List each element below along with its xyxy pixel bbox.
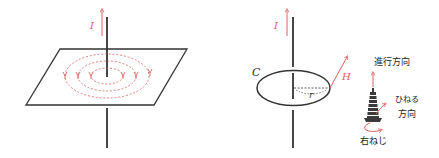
screw-icon <box>364 88 382 122</box>
advance-direction-label: 進行方向 <box>374 56 410 67</box>
screw-illustration: 進行方向 ひねる 方向 右ねじ <box>360 56 419 146</box>
left-panel: I <box>26 10 187 148</box>
field-label: H <box>341 71 351 82</box>
rotation-arrow <box>365 123 381 132</box>
loop-label: C <box>252 66 261 79</box>
radius-label: r <box>309 90 314 100</box>
right-panel: r I C H 進行方向 <box>252 10 419 148</box>
twist-direction-label-1: ひねる <box>395 95 419 104</box>
screw-label: 右ねじ <box>360 135 387 146</box>
current-label: I <box>273 20 279 31</box>
diagram-canvas: I r <box>0 0 439 158</box>
current-label: I <box>89 20 95 31</box>
twist-direction-label-2: 方向 <box>398 108 416 119</box>
